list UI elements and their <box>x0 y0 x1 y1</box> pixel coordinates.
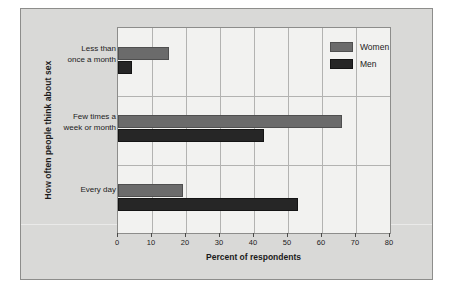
chart-figure: How often people think about sex Less th… <box>20 8 433 280</box>
x-tick-label-0: 0 <box>105 238 129 247</box>
category-label-0-line2: once a month <box>39 55 116 66</box>
legend: Women Men <box>330 40 408 74</box>
category-label-2: Every day <box>39 185 116 196</box>
x-tick-label-80: 80 <box>377 238 401 247</box>
gridline-category-separator-2 <box>118 165 390 166</box>
bar-men-every-day <box>118 198 298 211</box>
category-label-1-line1: Few times a <box>39 112 116 123</box>
gridline-category-separator-1 <box>118 96 390 97</box>
x-tick-label-60: 60 <box>309 238 333 247</box>
legend-label-men: Men <box>360 59 377 69</box>
gridline-x-60 <box>322 28 323 233</box>
x-tick-0 <box>117 233 118 237</box>
bar-women-few-times-a-week-or-month <box>118 115 342 128</box>
plot-area: Women Men <box>117 27 391 234</box>
category-label-1-line2: week or month <box>39 123 116 134</box>
category-label-1: Few times a week or month <box>39 112 116 133</box>
bar-men-few-times-a-week-or-month <box>118 129 264 142</box>
legend-label-women: Women <box>360 42 389 52</box>
x-tick-label-40: 40 <box>241 238 265 247</box>
bar-women-less-than-once-a-month <box>118 47 169 60</box>
x-tick-label-10: 10 <box>139 238 163 247</box>
bar-men-less-than-once-a-month <box>118 61 132 74</box>
x-tick-label-50: 50 <box>275 238 299 247</box>
x-tick-50 <box>287 233 288 237</box>
x-tick-20 <box>185 233 186 237</box>
x-tick-70 <box>355 233 356 237</box>
x-tick-label-70: 70 <box>343 238 367 247</box>
chart-page: How often people think about sex Less th… <box>0 0 453 288</box>
category-label-2-line1: Every day <box>39 185 116 196</box>
x-tick-60 <box>321 233 322 237</box>
x-tick-30 <box>219 233 220 237</box>
x-tick-40 <box>253 233 254 237</box>
x-tick-label-30: 30 <box>207 238 231 247</box>
x-tick-80 <box>389 233 390 237</box>
legend-item-women: Women <box>330 40 408 54</box>
legend-swatch-women-icon <box>330 42 353 52</box>
x-tick-10 <box>151 233 152 237</box>
x-axis-title: Percent of respondents <box>117 252 390 262</box>
category-label-0-line1: Less than <box>39 44 116 55</box>
category-label-column: Less than once a month Few times a week … <box>39 27 116 232</box>
x-tick-label-20: 20 <box>173 238 197 247</box>
legend-swatch-men-icon <box>330 59 353 69</box>
legend-item-men: Men <box>330 57 408 71</box>
category-label-0: Less than once a month <box>39 44 116 65</box>
bar-women-every-day <box>118 184 183 197</box>
